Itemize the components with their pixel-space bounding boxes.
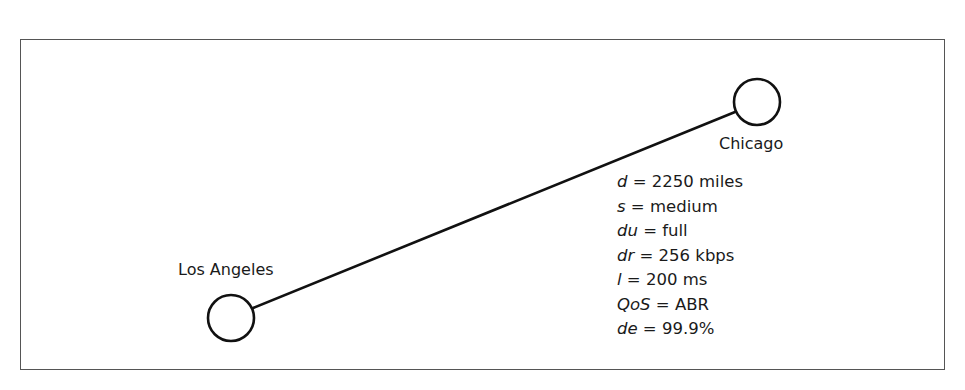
- attr-key: de: [617, 319, 638, 338]
- attr-data-rate: dr = 256 kbps: [617, 244, 743, 269]
- attr-key: du: [617, 221, 638, 240]
- attr-value: full: [662, 221, 687, 240]
- attr-key: s: [617, 197, 626, 216]
- node-label-chicago: Chicago: [719, 134, 783, 154]
- attr-latency: l = 200 ms: [617, 268, 743, 293]
- network-diagram: [0, 0, 965, 390]
- attr-dependability: de = 99.9%: [617, 317, 743, 342]
- attr-duplex: du = full: [617, 219, 743, 244]
- attr-value: 256 kbps: [659, 246, 735, 265]
- link-attributes: d = 2250 miles s = medium du = full dr =…: [617, 170, 743, 342]
- attr-key: dr: [617, 246, 634, 265]
- attr-value: 99.9%: [662, 319, 714, 338]
- attr-value: medium: [650, 197, 718, 216]
- attr-key: QoS: [617, 295, 651, 314]
- node-los-angeles-icon: [208, 295, 254, 341]
- attr-value: ABR: [675, 295, 709, 314]
- node-label-los-angeles: Los Angeles: [178, 260, 274, 280]
- attr-speed: s = medium: [617, 195, 743, 220]
- attr-key: l: [617, 270, 622, 289]
- node-chicago-icon: [734, 79, 780, 125]
- attr-key: d: [617, 172, 627, 191]
- attr-value: 2250 miles: [652, 172, 743, 191]
- attr-value: 200 ms: [646, 270, 707, 289]
- attr-distance: d = 2250 miles: [617, 170, 743, 195]
- attr-qos: QoS = ABR: [617, 293, 743, 318]
